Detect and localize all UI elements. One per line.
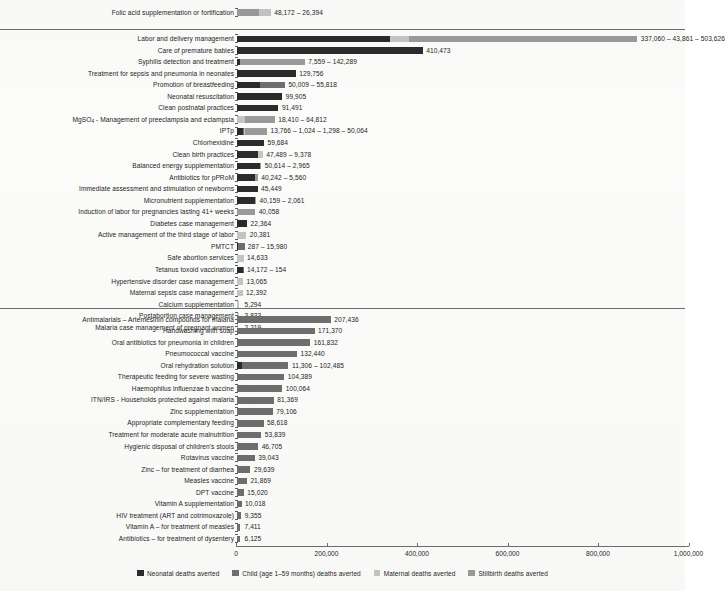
bar-segment (237, 36, 390, 43)
chart-row: Zinc – for treatment of diarrhea29,639 (0, 464, 685, 476)
row-value-label: 14,172 – 154 (247, 264, 286, 276)
chart-row: HIV treatment (ART and cotrimoxazole)9,3… (0, 510, 685, 522)
row-value-label: 59,684 (268, 137, 289, 149)
row-value-label: 99,905 (286, 91, 307, 103)
bar-segment (255, 197, 256, 204)
bar-segment (237, 209, 255, 216)
row-value-label: 45,449 (261, 183, 282, 195)
chart-row: Zinc supplementation79,106 (0, 406, 685, 418)
bar-segment (237, 478, 247, 485)
chart-row: Balanced energy supplementation50,614 – … (0, 160, 685, 172)
row-value-label: 7,411 (245, 521, 261, 533)
chart-row: Maternal sepsis case management12,392 (0, 287, 685, 299)
row-value-label: 337,060 – 43,861 – 503,626 (641, 33, 725, 45)
chart-row: Therapeutic feeding for severe wasting10… (0, 371, 685, 383)
bar-segment (260, 163, 261, 170)
bar-segment (390, 36, 410, 43)
row-value-label: 47,489 – 9,378 (266, 149, 311, 161)
stacked-bar (237, 443, 258, 450)
row-value-label: 53,839 (265, 429, 286, 441)
stacked-bar (237, 82, 285, 89)
chart-row: PMTCT287 – 15,980 (0, 241, 685, 253)
bar-segment (237, 9, 259, 16)
row-value-label: 410,473 (426, 45, 450, 57)
bar-segment (237, 105, 278, 112)
legend-item[interactable]: Stillbirth deaths averted (468, 570, 548, 577)
row-value-label: 39,043 (258, 452, 279, 464)
bar-segment (409, 36, 637, 43)
bar-segment (237, 420, 264, 427)
row-value-label: 50,009 – 55,818 (288, 79, 337, 91)
row-label: Antibiotics for pPRoM (169, 172, 234, 184)
axis-tick-label: 600,000 (496, 550, 520, 557)
bar-segment (237, 82, 260, 89)
stacked-bar (237, 243, 245, 250)
row-value-label: 40,058 (259, 206, 280, 218)
bar-segment (237, 197, 255, 204)
legend-label: Stillbirth deaths averted (478, 570, 548, 577)
bar-segment (245, 116, 274, 123)
stacked-bar (237, 151, 263, 158)
bar-segment (255, 174, 258, 181)
chart-row: Promotion of breastfeeding50,009 – 55,81… (0, 79, 685, 91)
bar-segment (237, 374, 284, 381)
row-value-label: 9,355 (245, 510, 262, 522)
row-value-label: 207,436 (334, 314, 358, 326)
row-label: Vitamin A supplementation (155, 498, 234, 510)
bar-segment (237, 174, 255, 181)
chart-row: Syphilis detection and treatment7,559 – … (0, 56, 685, 68)
bar-segment (237, 278, 243, 285)
legend-item[interactable]: Maternal deaths averted (374, 570, 456, 577)
row-label: Balanced energy supplementation (132, 160, 234, 172)
row-value-label: 50,614 – 2,965 (265, 160, 310, 172)
chart-row: Tetanus toxoid vaccination14,172 – 154 (0, 264, 685, 276)
legend-label: Child (age 1–59 months) deaths averted (242, 570, 360, 577)
legend-item[interactable]: Neonatal deaths averted (137, 570, 219, 577)
legend-swatch (232, 570, 239, 577)
legend-item[interactable]: Child (age 1–59 months) deaths averted (232, 570, 360, 577)
row-label: Measles vaccine (184, 475, 234, 487)
bar-segment (237, 220, 247, 227)
stacked-bar (237, 351, 297, 358)
bar-segment (237, 93, 282, 100)
stacked-bar (237, 290, 243, 297)
chart-row: Neonatal resuscitation99,905 (0, 91, 685, 103)
bar-segment (245, 128, 268, 135)
stacked-bar (237, 374, 284, 381)
chart-group: Folic acid supplementation or fortificat… (0, 7, 685, 19)
bar-segment (237, 328, 315, 335)
row-label: Therapeutic feeding for severe wasting (118, 371, 234, 383)
chart-row: Micronutrient supplementation40,159 – 2,… (0, 195, 685, 207)
row-label: Syphilis detection and treatment (138, 56, 234, 68)
bar-segment (237, 186, 258, 193)
chart-row: Measles vaccine21,869 (0, 475, 685, 487)
row-value-label: 81,369 (277, 394, 298, 406)
stacked-bar (237, 362, 288, 369)
row-label: DPT vaccine (196, 487, 234, 499)
bar-segment (237, 116, 245, 123)
stacked-bar (237, 432, 261, 439)
chart-row: Hygienic disposal of children's stools46… (0, 441, 685, 453)
row-label: Pneumococcal vaccine (165, 348, 234, 360)
axis-tick-mark (327, 543, 328, 546)
row-label: Oral rehydration solution (161, 360, 235, 372)
chart-row: ITN/IRS - Households protected against m… (0, 394, 685, 406)
row-label: Zinc – for treatment of diarrhea (141, 464, 234, 476)
row-value-label: 46,705 (262, 441, 283, 453)
bar-segment (237, 163, 260, 170)
chart-row: Treatment for moderate acute malnutritio… (0, 429, 685, 441)
chart-group: Antimalarials – Artemesinin compounds fo… (0, 314, 685, 545)
row-value-label: 13,766 – 1,024 – 1,298 – 50,064 (270, 125, 367, 137)
row-label: ITN/IRS - Households protected against m… (91, 394, 234, 406)
bar-segment (237, 301, 239, 308)
axis-tick-label: 1,000,000 (674, 550, 703, 557)
chart-row: Pneumococcal vaccine132,440 (0, 348, 685, 360)
chart-row: Hypertensive disorder case management13,… (0, 276, 685, 288)
bar-segment (260, 82, 285, 89)
bar-segment (237, 397, 274, 404)
row-value-label: 91,491 (282, 102, 303, 114)
axis-tick-mark (508, 543, 509, 546)
stacked-bar (237, 47, 423, 54)
row-value-label: 58,618 (267, 417, 288, 429)
row-label: Vitamin A – for treatment of measles (126, 521, 234, 533)
